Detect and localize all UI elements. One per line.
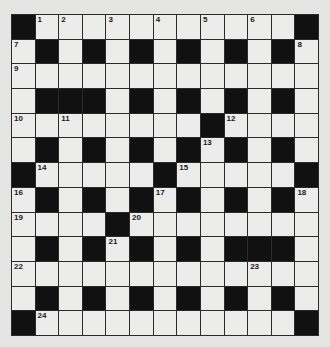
answer-square[interactable] bbox=[83, 15, 106, 39]
answer-square[interactable] bbox=[106, 188, 129, 212]
answer-square[interactable] bbox=[83, 213, 106, 237]
answer-square[interactable]: 10 bbox=[12, 114, 35, 138]
answer-square[interactable] bbox=[201, 262, 224, 286]
answer-square[interactable] bbox=[225, 262, 248, 286]
answer-square[interactable]: 19 bbox=[12, 213, 35, 237]
answer-square[interactable] bbox=[248, 188, 271, 212]
answer-square[interactable]: 22 bbox=[12, 262, 35, 286]
answer-square[interactable] bbox=[248, 40, 271, 64]
answer-square[interactable]: 6 bbox=[248, 15, 271, 39]
answer-square[interactable] bbox=[106, 287, 129, 311]
answer-square[interactable]: 5 bbox=[201, 15, 224, 39]
answer-square[interactable] bbox=[201, 188, 224, 212]
answer-square[interactable]: 24 bbox=[36, 311, 59, 335]
answer-square[interactable]: 12 bbox=[225, 114, 248, 138]
answer-square[interactable]: 14 bbox=[36, 163, 59, 187]
answer-square[interactable] bbox=[201, 40, 224, 64]
answer-square[interactable]: 3 bbox=[106, 15, 129, 39]
answer-square[interactable] bbox=[154, 262, 177, 286]
answer-square[interactable] bbox=[177, 311, 200, 335]
answer-square[interactable] bbox=[130, 163, 153, 187]
answer-square[interactable] bbox=[130, 262, 153, 286]
answer-square[interactable] bbox=[177, 262, 200, 286]
answer-square[interactable] bbox=[83, 114, 106, 138]
answer-square[interactable]: 15 bbox=[177, 163, 200, 187]
answer-square[interactable]: 9 bbox=[12, 64, 35, 88]
answer-square[interactable] bbox=[83, 262, 106, 286]
answer-square[interactable] bbox=[59, 40, 82, 64]
answer-square[interactable] bbox=[154, 287, 177, 311]
answer-square[interactable] bbox=[106, 262, 129, 286]
answer-square[interactable] bbox=[154, 114, 177, 138]
answer-square[interactable] bbox=[154, 311, 177, 335]
answer-square[interactable] bbox=[248, 163, 271, 187]
answer-square[interactable] bbox=[12, 287, 35, 311]
answer-square[interactable] bbox=[201, 237, 224, 261]
answer-square[interactable] bbox=[177, 15, 200, 39]
answer-square[interactable] bbox=[295, 64, 318, 88]
answer-square[interactable]: 11 bbox=[59, 114, 82, 138]
answer-square[interactable] bbox=[130, 311, 153, 335]
answer-square[interactable] bbox=[225, 64, 248, 88]
answer-square[interactable]: 8 bbox=[295, 40, 318, 64]
answer-square[interactable] bbox=[272, 213, 295, 237]
answer-square[interactable] bbox=[177, 64, 200, 88]
answer-square[interactable] bbox=[59, 237, 82, 261]
answer-square[interactable] bbox=[201, 311, 224, 335]
answer-square[interactable] bbox=[295, 114, 318, 138]
answer-square[interactable] bbox=[59, 188, 82, 212]
answer-square[interactable] bbox=[59, 64, 82, 88]
answer-square[interactable] bbox=[154, 237, 177, 261]
answer-square[interactable] bbox=[36, 262, 59, 286]
answer-square[interactable] bbox=[295, 138, 318, 162]
answer-square[interactable] bbox=[59, 163, 82, 187]
answer-square[interactable] bbox=[225, 311, 248, 335]
answer-square[interactable] bbox=[106, 64, 129, 88]
answer-square[interactable] bbox=[177, 213, 200, 237]
answer-square[interactable] bbox=[201, 163, 224, 187]
answer-square[interactable] bbox=[248, 64, 271, 88]
answer-square[interactable] bbox=[295, 287, 318, 311]
answer-square[interactable] bbox=[225, 213, 248, 237]
answer-square[interactable] bbox=[201, 89, 224, 113]
answer-square[interactable]: 23 bbox=[248, 262, 271, 286]
answer-square[interactable] bbox=[295, 89, 318, 113]
answer-square[interactable] bbox=[106, 40, 129, 64]
answer-square[interactable] bbox=[295, 213, 318, 237]
answer-square[interactable]: 20 bbox=[130, 213, 153, 237]
answer-square[interactable] bbox=[36, 64, 59, 88]
answer-square[interactable] bbox=[59, 287, 82, 311]
answer-square[interactable] bbox=[248, 89, 271, 113]
answer-square[interactable]: 21 bbox=[106, 237, 129, 261]
answer-square[interactable] bbox=[36, 114, 59, 138]
answer-square[interactable] bbox=[201, 64, 224, 88]
answer-square[interactable] bbox=[154, 40, 177, 64]
answer-square[interactable]: 2 bbox=[59, 15, 82, 39]
answer-square[interactable] bbox=[106, 114, 129, 138]
answer-square[interactable] bbox=[248, 138, 271, 162]
answer-square[interactable] bbox=[59, 213, 82, 237]
answer-square[interactable] bbox=[154, 64, 177, 88]
answer-square[interactable] bbox=[154, 138, 177, 162]
answer-square[interactable] bbox=[12, 89, 35, 113]
answer-square[interactable]: 4 bbox=[154, 15, 177, 39]
answer-square[interactable] bbox=[177, 114, 200, 138]
answer-square[interactable]: 18 bbox=[295, 188, 318, 212]
answer-square[interactable]: 7 bbox=[12, 40, 35, 64]
answer-square[interactable] bbox=[59, 138, 82, 162]
answer-square[interactable] bbox=[83, 64, 106, 88]
answer-square[interactable]: 17 bbox=[154, 188, 177, 212]
answer-square[interactable] bbox=[106, 138, 129, 162]
answer-square[interactable] bbox=[225, 15, 248, 39]
answer-square[interactable] bbox=[272, 64, 295, 88]
answer-square[interactable] bbox=[272, 15, 295, 39]
answer-square[interactable] bbox=[272, 114, 295, 138]
answer-square[interactable]: 1 bbox=[36, 15, 59, 39]
answer-square[interactable] bbox=[59, 311, 82, 335]
answer-square[interactable] bbox=[201, 213, 224, 237]
answer-square[interactable] bbox=[154, 213, 177, 237]
answer-square[interactable] bbox=[130, 15, 153, 39]
answer-square[interactable] bbox=[36, 213, 59, 237]
answer-square[interactable] bbox=[225, 163, 248, 187]
answer-square[interactable] bbox=[295, 262, 318, 286]
